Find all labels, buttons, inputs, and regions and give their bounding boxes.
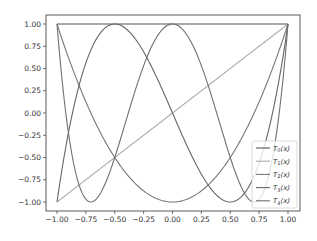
y-tick-label: −1.00 [18,198,41,207]
x-tick-label: 0.00 [164,215,181,224]
x-tick-label: 0.50 [222,215,239,224]
x-tick-label: −0.50 [103,215,126,224]
y-tick-label: −0.50 [18,153,41,162]
y-tick-label: 0.50 [24,64,41,73]
x-tick-label: −0.25 [132,215,155,224]
legend-label: T4(x) [273,197,290,206]
x-axis: −1.00−0.75−0.50−0.250.000.250.500.751.00 [46,211,297,224]
y-tick-label: 1.00 [24,20,41,29]
y-axis: 1.000.750.500.250.00−0.25−0.50−0.75−1.00 [18,20,46,207]
legend-label: T2(x) [273,171,290,180]
y-tick-label: 0.25 [24,86,41,95]
y-tick-label: 0.75 [24,42,41,51]
chart: −1.00−0.75−0.50−0.250.000.250.500.751.00… [0,0,317,241]
legend-label: T1(x) [273,158,290,167]
x-tick-label: 0.25 [193,215,210,224]
x-tick-label: 1.00 [280,215,297,224]
legend-label: T0(x) [273,145,290,154]
x-tick-label: −0.75 [74,215,97,224]
y-tick-label: −0.25 [18,131,41,140]
x-tick-label: 0.75 [251,215,268,224]
x-tick-label: −1.00 [46,215,69,224]
y-tick-label: 0.00 [24,109,41,118]
legend-label: T3(x) [273,184,290,193]
legend: T0(x)T1(x)T2(x)T3(x)T4(x) [252,141,297,208]
y-tick-label: −0.75 [18,175,41,184]
